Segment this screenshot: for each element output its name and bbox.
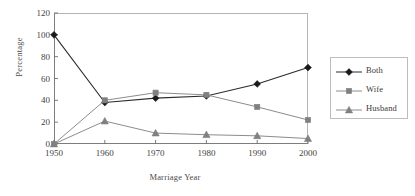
y-tick-label: 60 <box>2 74 50 84</box>
triangle-marker-icon <box>335 102 363 114</box>
y-tick-label: 40 <box>2 95 50 105</box>
y-axis-tick-labels: 020406080100120 <box>0 13 50 144</box>
x-tick-label: 2000 <box>286 148 330 158</box>
x-tick-label: 1950 <box>32 148 76 158</box>
legend-label: Both <box>366 65 383 75</box>
x-tick-label: 1990 <box>235 148 279 158</box>
y-tick-label: 100 <box>2 30 50 40</box>
diamond-marker-icon <box>335 64 363 76</box>
legend-item-husband[interactable]: Husband <box>335 101 397 115</box>
legend-item-both[interactable]: Both <box>335 63 383 77</box>
y-tick-label: 120 <box>2 8 50 18</box>
x-tick-label: 1980 <box>184 148 228 158</box>
chart-legend: BothWifeHusband <box>330 57 408 119</box>
y-tick-label: 20 <box>2 117 50 127</box>
x-axis-title: Marriage Year <box>40 172 310 182</box>
x-tick-label: 1960 <box>83 148 127 158</box>
chart-series-layer <box>54 13 308 144</box>
series-both <box>51 31 312 105</box>
axis-ticks <box>54 13 308 144</box>
legend-item-wife[interactable]: Wife <box>335 82 383 96</box>
x-axis-tick-labels: 195019601970198019902000 <box>54 148 308 164</box>
plot-area <box>54 13 308 144</box>
legend-label: Wife <box>366 84 383 94</box>
y-tick-label: 80 <box>2 52 50 62</box>
chart-figure: Percentage 020406080100120 1950196019701… <box>0 0 415 196</box>
series-husband <box>50 117 311 146</box>
series-wife <box>51 90 310 147</box>
x-tick-label: 1970 <box>134 148 178 158</box>
square-marker-icon <box>335 83 363 95</box>
legend-label: Husband <box>366 103 397 113</box>
